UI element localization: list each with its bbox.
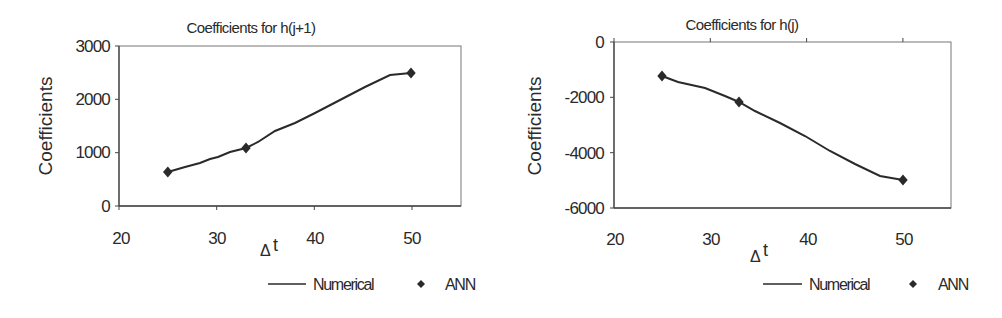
y-tick-label: 3000 — [75, 37, 110, 56]
numerical-series-line — [662, 76, 903, 180]
chart-canvas: Coefficients for h(j+1) 3000 2000 1000 0… — [0, 0, 500, 318]
legend-label-numerical: Numerical — [313, 276, 374, 293]
legend-label-ann: ANN — [938, 276, 969, 293]
x-axis-label-delta: Δ — [750, 248, 761, 265]
y-tick-label: 0 — [595, 33, 604, 52]
x-axis-label-t: t — [763, 240, 768, 260]
y-tick-label: -2000 — [565, 88, 605, 107]
x-tick-label: 40 — [306, 229, 324, 248]
chart-title: Coefficients for h(j+1) — [187, 19, 317, 36]
x-tick-label: 50 — [403, 229, 421, 248]
y-tick-label: 2000 — [75, 90, 110, 109]
legend-label-ann: ANN — [445, 276, 476, 293]
x-tick-label: 20 — [606, 230, 624, 249]
y-axis-label: Coefficients — [524, 77, 545, 176]
y-tick-label: 1000 — [75, 143, 110, 162]
x-tick-label: 40 — [799, 230, 817, 249]
legend: Numerical ANN — [763, 276, 969, 293]
ann-series-markers — [163, 68, 416, 178]
legend-label-numerical: Numerical — [809, 276, 870, 293]
x-tick-label: 50 — [895, 230, 913, 249]
chart-h-j: Coefficients for h(j) 0 -2000 -4000 -600… — [500, 0, 1002, 318]
ann-marker — [241, 143, 250, 154]
y-axis-label: Coefficients — [35, 77, 56, 176]
x-tick-label: 30 — [702, 230, 720, 249]
ann-series-markers — [657, 71, 907, 186]
legend: Numerical ANN — [268, 276, 476, 293]
legend-diamond-swatch — [417, 280, 425, 288]
ann-marker — [898, 175, 907, 186]
numerical-series-line — [168, 73, 411, 172]
y-tick-label: -6000 — [565, 199, 605, 218]
x-axis-label-delta: Δ — [260, 242, 271, 259]
legend-diamond-swatch — [909, 280, 917, 288]
chart-canvas: Coefficients for h(j) 0 -2000 -4000 -600… — [500, 0, 1002, 318]
chart-h-j-plus-1: Coefficients for h(j+1) 3000 2000 1000 0… — [0, 0, 500, 318]
ann-marker — [406, 68, 415, 79]
x-ticks — [614, 38, 903, 42]
chart-title: Coefficients for h(j) — [685, 16, 799, 33]
y-tick-label: -4000 — [565, 144, 605, 163]
y-tick-label: 0 — [101, 197, 110, 216]
ann-marker — [163, 167, 173, 178]
x-tick-label: 20 — [112, 229, 130, 248]
ann-marker — [734, 97, 743, 108]
ann-marker — [657, 71, 666, 82]
x-tick-label: 30 — [208, 229, 226, 248]
x-axis-label-t: t — [273, 235, 278, 255]
